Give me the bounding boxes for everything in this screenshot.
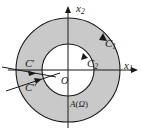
x2-axis-label: x2 bbox=[76, 3, 85, 14]
region-label-close-paren: ) bbox=[85, 99, 88, 109]
annulus-diagram-svg bbox=[0, 0, 142, 134]
x1-axis-label: x1 bbox=[124, 60, 133, 71]
c2-contour-label: C2 bbox=[87, 58, 98, 69]
annulus-region bbox=[0, 0, 142, 134]
x1-axis-label-subscript: 1 bbox=[129, 64, 133, 73]
c-double-prime-label: C″ bbox=[25, 82, 37, 93]
c1-contour-label: C1 bbox=[105, 38, 116, 49]
origin-label: O bbox=[61, 76, 68, 86]
c-prime-label-mark: ′ bbox=[32, 58, 34, 69]
c2-label-subscript: 2 bbox=[94, 62, 98, 71]
c-double-prime-label-mark: ″ bbox=[32, 82, 36, 93]
region-label: A(Ω) bbox=[70, 100, 88, 109]
x2-axis-label-subscript: 2 bbox=[81, 7, 85, 16]
c-prime-label: C′ bbox=[25, 58, 35, 69]
figure-container: x2 x1 C1 C2 C′ C″ O A(Ω) bbox=[0, 0, 142, 134]
c1-label-subscript: 1 bbox=[112, 42, 116, 51]
